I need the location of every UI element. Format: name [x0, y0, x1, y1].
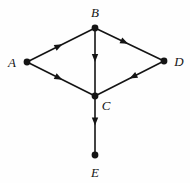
edges-layer [27, 28, 164, 155]
arrowhead-d-c [130, 72, 139, 78]
graph-vertex-b [92, 25, 99, 32]
arrowhead-b-c [92, 54, 98, 62]
vertex-label-c: C [102, 99, 111, 112]
graph-vertex-d [161, 58, 168, 65]
arrowhead-a-b [54, 44, 63, 50]
graph-edge-b-d [95, 28, 164, 61]
vertex-label-b: B [91, 6, 99, 19]
graph-figure: ABCDE [0, 0, 190, 183]
vertex-label-e: E [91, 166, 99, 179]
vertex-label-a: A [8, 56, 16, 69]
arrowhead-a-c [54, 73, 63, 79]
graph-vertex-c [92, 93, 99, 100]
graph-canvas [0, 0, 190, 183]
arrowhead-c-e [92, 118, 98, 126]
vertex-label-d: D [174, 55, 183, 68]
graph-vertex-a [24, 59, 31, 66]
arrowhead-b-d [120, 38, 129, 44]
graph-vertex-e [92, 152, 99, 159]
